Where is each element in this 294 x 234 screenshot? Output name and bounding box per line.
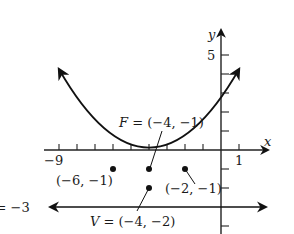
vertex-point <box>146 185 152 191</box>
right-point <box>182 166 188 172</box>
focus-point <box>146 166 152 172</box>
left-point-label: (−6, −1) <box>56 173 113 188</box>
vertex-label: V = (−4, −2) <box>90 214 175 229</box>
tick-label-5: 5 <box>207 48 215 63</box>
tick-label-minus9: −9 <box>44 153 63 168</box>
x-axis-label: x <box>264 134 272 149</box>
parabola-graph: y x 5 −9 1 F = (−4, −1) V = (−4, −2) (−6… <box>0 0 294 234</box>
left-point <box>110 166 116 172</box>
tick-label-1: 1 <box>235 153 243 168</box>
directrix-label: y = −3 <box>0 200 30 215</box>
y-axis-ticks <box>221 55 229 226</box>
right-point-label: (−2, −1) <box>165 181 222 196</box>
focus-label: F = (−4, −1) <box>118 115 204 130</box>
y-axis-label: y <box>207 27 216 42</box>
parabola-curve <box>59 69 239 147</box>
